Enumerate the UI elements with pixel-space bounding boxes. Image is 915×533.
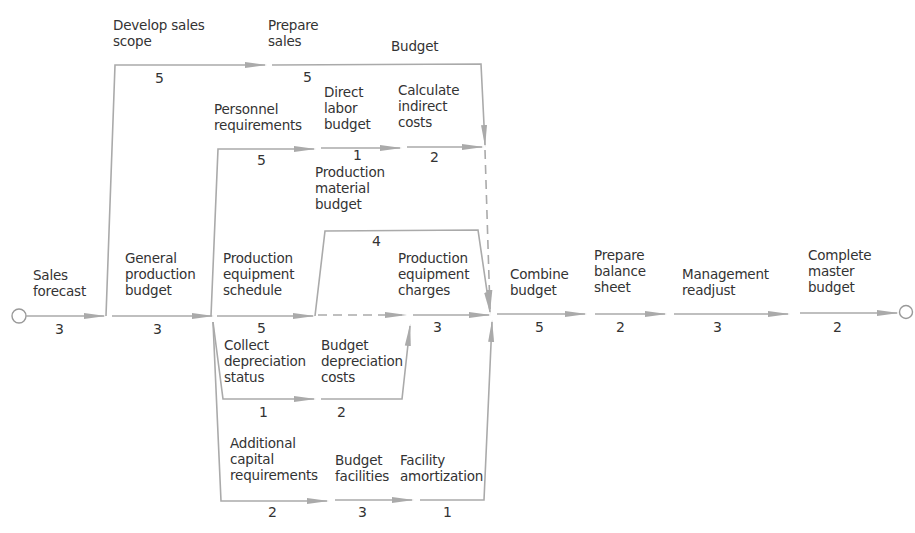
label-combine-budget: Combine budget [510, 266, 569, 298]
label-prepare-balance-sheet: Prepare balance sheet [594, 247, 646, 295]
duration-additional-capital-requirements: 2 [268, 504, 277, 520]
duration-production-material-budget: 4 [372, 233, 381, 249]
label-collect-depreciation-status: Collect depreciation status [224, 337, 306, 385]
duration-combine-budget: 5 [535, 319, 544, 335]
duration-sales-forecast: 3 [55, 321, 64, 337]
label-facility-amortization: Facility amortization [400, 452, 483, 484]
label-calculate-indirect-costs: Calculate indirect costs [398, 82, 459, 130]
start-node [12, 309, 26, 323]
duration-management-readjust: 3 [713, 319, 722, 335]
label-general-production-budget: General production budget [125, 250, 196, 298]
label-complete-master-budget: Complete master budget [808, 247, 871, 295]
label-budget-facilities: Budget facilities [335, 452, 389, 484]
label-production-equipment-charges: Production equipment charges [398, 250, 469, 298]
duration-direct-labor-budget: 1 [353, 147, 362, 163]
end-node [900, 306, 913, 319]
duration-prepare-sales-budget: 5 [303, 69, 312, 85]
duration-budget-facilities: 3 [358, 504, 367, 520]
duration-budget-depreciation-costs: 2 [337, 404, 346, 420]
duration-general-production-budget: 3 [153, 321, 162, 337]
label-budget-depreciation-costs: Budget depreciation costs [321, 337, 403, 385]
duration-develop-sales-scope: 5 [155, 70, 164, 86]
duration-facility-amortization: 1 [443, 504, 452, 520]
duration-prepare-balance-sheet: 2 [616, 319, 625, 335]
duration-personnel-requirements: 5 [257, 152, 266, 168]
label-direct-labor-budget: Direct labor budget [324, 84, 371, 132]
label-prepare-sales: Prepare sales [268, 17, 318, 49]
label-develop-sales-scope: Develop sales scope [113, 17, 205, 49]
label-management-readjust: Management readjust [682, 266, 769, 298]
label-production-equipment-schedule: Production equipment schedule [223, 250, 294, 298]
label-personnel-requirements: Personnel requirements [214, 101, 302, 133]
duration-production-equipment-charges: 3 [433, 319, 442, 335]
duration-production-equipment-schedule: 5 [257, 320, 266, 336]
duration-collect-depreciation-status: 1 [259, 404, 268, 420]
label-production-material-budget: Production material budget [315, 164, 385, 212]
duration-complete-master-budget: 2 [833, 319, 842, 335]
duration-calculate-indirect-costs: 2 [430, 149, 439, 165]
label-budget: Budget [391, 38, 438, 54]
label-additional-capital-requirements: Additional capital requirements [230, 435, 318, 483]
label-sales-forecast: Sales forecast [33, 267, 86, 299]
